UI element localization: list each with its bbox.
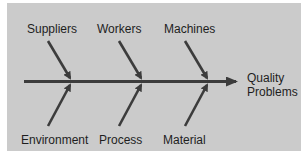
cause-arrow-machines <box>185 41 207 78</box>
cause-arrow-suppliers <box>48 41 70 78</box>
fishbone-diagram: Suppliers Workers Machines Environment P… <box>0 0 305 161</box>
cause-label-workers: Workers <box>97 23 141 36</box>
cause-label-suppliers: Suppliers <box>27 23 77 36</box>
effect-label-line2: Problems <box>247 85 298 99</box>
effect-label: Quality Problems <box>247 71 298 99</box>
effect-label-line1: Quality <box>247 71 298 85</box>
cause-arrow-material <box>185 85 207 126</box>
cause-arrow-environment <box>48 85 70 126</box>
cause-label-machines: Machines <box>164 23 215 36</box>
cause-label-material: Material <box>163 134 206 147</box>
cause-label-environment: Environment <box>21 134 88 147</box>
cause-arrow-workers <box>119 41 141 78</box>
cause-arrow-process <box>119 85 141 126</box>
cause-label-process: Process <box>99 134 142 147</box>
